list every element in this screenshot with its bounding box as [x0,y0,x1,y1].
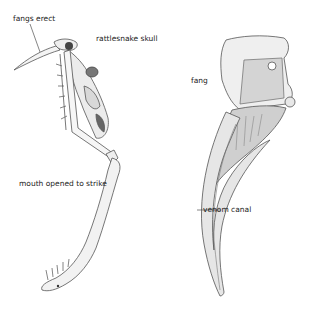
label-fangs-erect: fangs erect [13,15,55,23]
diagram-canvas: fangs erect rattlesnake skull fang mouth… [0,0,312,310]
label-venom-canal: venom canal [203,206,251,214]
label-mouth-opened-to-strike: mouth opened to strike [19,180,107,188]
illustration [0,0,312,310]
fang-drawing [197,36,295,296]
label-fang: fang [191,77,208,85]
label-rattlesnake-skull: rattlesnake skull [96,35,158,43]
rattlesnake-skull-drawing [14,24,120,291]
